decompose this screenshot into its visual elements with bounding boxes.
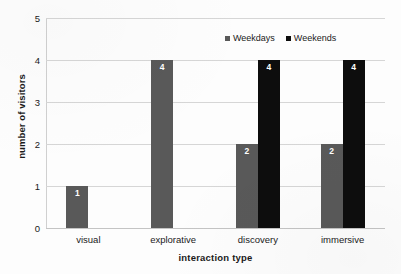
legend-label: Weekends: [294, 33, 336, 43]
y-tick-label: 5: [10, 13, 40, 24]
bar-discovery-weekends[interactable]: 4: [258, 60, 280, 228]
bar-value-label: 4: [151, 63, 173, 72]
bar-immersive-weekdays[interactable]: 2: [321, 144, 343, 228]
bar-visual-weekdays[interactable]: 1: [66, 186, 88, 228]
x-tick-label-visual: visual: [46, 234, 131, 245]
legend: Weekdays Weekends: [225, 33, 336, 43]
legend-item-weekdays[interactable]: Weekdays: [225, 33, 275, 43]
bar-value-label: 2: [321, 147, 343, 156]
bar-value-label: 4: [343, 63, 365, 72]
bar-group-visual: 1: [46, 18, 131, 228]
legend-swatch-icon: [225, 36, 230, 41]
bar-explorative-weekdays[interactable]: 4: [151, 60, 173, 228]
legend-item-weekends[interactable]: Weekends: [286, 33, 336, 43]
x-tick-label-discovery: discovery: [216, 234, 301, 245]
legend-label: Weekdays: [233, 33, 275, 43]
bar-value-label: 1: [66, 189, 88, 198]
y-tick-label: 4: [10, 55, 40, 66]
y-tick-label: 3: [10, 97, 40, 108]
bar-value-label: 2: [236, 147, 258, 156]
bar-group-discovery: 2 4: [216, 18, 301, 228]
x-axis-tick-labels: visual explorative discovery immersive: [46, 234, 385, 245]
bar-value-label: 4: [258, 63, 280, 72]
y-tick-label: 2: [10, 139, 40, 150]
bar-group-explorative: 4: [131, 18, 216, 228]
y-tick-label: 0: [10, 223, 40, 234]
y-tick-label: 1: [10, 181, 40, 192]
bar-immersive-weekends[interactable]: 4: [343, 60, 365, 228]
bars-layer: 1 4 2 4 2 4: [46, 18, 385, 228]
x-axis-title: interaction type: [46, 252, 385, 263]
bar-chart: number of visitors 5 4 3 2 1 0 1 4: [0, 0, 401, 274]
bar-discovery-weekdays[interactable]: 2: [236, 144, 258, 228]
x-tick-label-explorative: explorative: [131, 234, 216, 245]
legend-swatch-icon: [286, 36, 291, 41]
gridline-0-baseline: [46, 228, 385, 229]
bar-group-immersive: 2 4: [300, 18, 385, 228]
y-axis-tick-labels: 5 4 3 2 1 0: [8, 18, 40, 228]
x-tick-label-immersive: immersive: [300, 234, 385, 245]
